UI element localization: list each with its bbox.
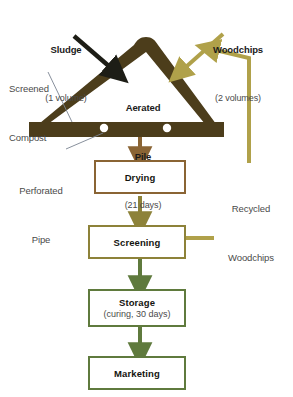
process-box-marketing[interactable]: Marketing <box>88 356 186 390</box>
screened-compost-line-2: Compost <box>9 132 95 143</box>
perforated-pipe-line-1: Perforated <box>5 185 77 196</box>
perforated-pipe-line-2: Pipe <box>5 234 77 245</box>
woodchips-label-volume: (2 volumes) <box>189 93 287 104</box>
perforated-pipe-callout: Perforated Pipe <box>5 147 77 283</box>
woodchips-label-title: Woodchips <box>189 44 287 55</box>
recycled-woodchips-line-2: Woodchips <box>214 252 288 263</box>
process-box-drying[interactable]: Drying <box>94 160 186 194</box>
process-box-screening[interactable]: Screening <box>88 225 186 259</box>
aerated-pile-label: Aerated Pile (21 days) <box>100 64 186 248</box>
storage-sublabel: (curing, 30 days) <box>103 309 170 319</box>
aerated-pile-line-1: Aerated <box>100 102 186 113</box>
aerated-pile-duration: (21 days) <box>100 200 186 211</box>
marketing-label: Marketing <box>114 368 160 379</box>
woodchips-input-label: Woodchips (2 volumes) <box>189 6 287 141</box>
process-box-storage[interactable]: Storage (curing, 30 days) <box>88 289 186 327</box>
screening-label: Screening <box>114 237 161 248</box>
storage-label: Storage <box>119 297 155 308</box>
drying-label: Drying <box>125 172 156 183</box>
screened-compost-line-1: Screened <box>9 83 95 94</box>
composting-flow-diagram: Sludge (1 volume) Woodchips (2 volumes) … <box>0 0 293 397</box>
recycled-woodchips-callout: Recycled Woodchips <box>214 163 288 303</box>
recycled-woodchips-line-1: Recycled <box>214 203 288 214</box>
